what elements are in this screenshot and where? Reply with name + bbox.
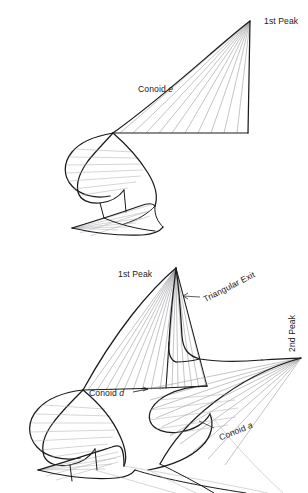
conoid-d-label: Conoid d: [89, 389, 124, 398]
figure-background: [0, 0, 308, 493]
lower-peak1-label: 1st Peak: [118, 270, 152, 279]
upper-conoid-e-label: Conoid e: [138, 85, 173, 94]
lower-peak2-label: 2nd Peak: [288, 315, 297, 352]
conoid-figure: .o { fill:none; stroke:#1b1b1b; stroke-w…: [0, 0, 308, 493]
upper-peak1-label: 1st Peak: [264, 17, 298, 26]
